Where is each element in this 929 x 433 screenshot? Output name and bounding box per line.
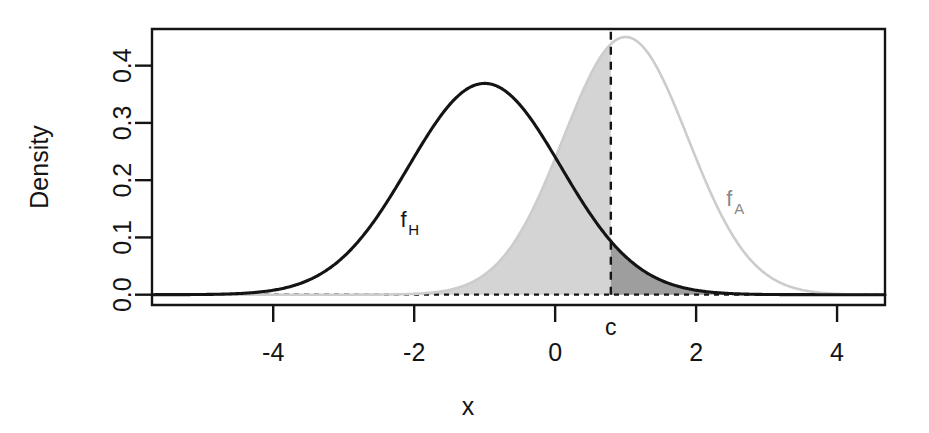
x-tick-label-two: 2: [689, 338, 703, 366]
x-axis-ticks: [273, 305, 837, 322]
y-axis-tick-labels: 0.0 0.1 0.2 0.3 0.4: [108, 48, 136, 312]
density-chart-figure: -4 -2 0 2 4 0.0 0.1 0.2 0.3 0.4 Density …: [0, 0, 929, 433]
x-tick-label-minus2: -2: [403, 338, 425, 366]
y-tick-label-0-2: 0.2: [108, 163, 136, 198]
x-tick-label-zero: 0: [548, 338, 562, 366]
y-tick-label-0-4: 0.4: [108, 48, 136, 83]
curve-f-a-subscript: A: [734, 200, 744, 217]
y-tick-label-0-0: 0.0: [108, 277, 136, 312]
type-i-error-region: [611, 241, 885, 295]
y-tick-label-0-1: 0.1: [108, 220, 136, 255]
curve-f-h-label: f: [401, 207, 408, 232]
y-axis-title: Density: [25, 125, 53, 209]
x-axis-title: x: [462, 392, 475, 420]
curve-f-a-label: f: [726, 186, 733, 211]
curve-h-annotation: f H: [401, 207, 419, 238]
x-axis-tick-labels: -4 -2 0 2 4: [262, 338, 844, 366]
curve-a-annotation: f A: [726, 186, 744, 217]
critical-value-label: c: [605, 314, 617, 340]
type-ii-error-region: [152, 44, 611, 295]
y-axis-ticks: [135, 66, 152, 295]
plot-svg: -4 -2 0 2 4 0.0 0.1 0.2 0.3 0.4 Density …: [0, 0, 929, 433]
shaded-regions: [152, 44, 885, 295]
x-tick-label-four: 4: [830, 338, 844, 366]
y-tick-label-0-3: 0.3: [108, 106, 136, 141]
x-tick-label-minus4: -4: [262, 338, 284, 366]
curve-f-h-subscript: H: [408, 221, 419, 238]
